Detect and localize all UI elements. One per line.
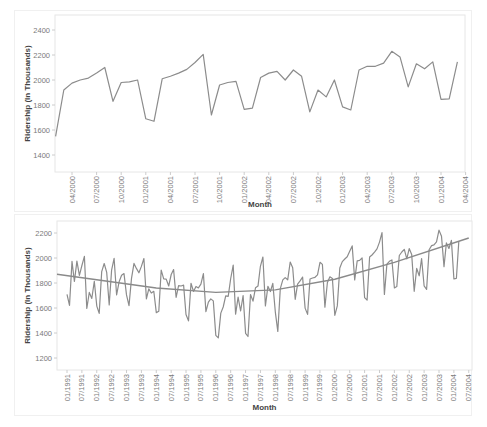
x-tick-label: 01/1992 [92, 374, 101, 401]
x-tick-label: 10/2003 [412, 176, 421, 203]
x-tick-label: 01/2004 [449, 374, 458, 401]
y-tick-label: 2000 [35, 254, 52, 263]
x-axis-label: Month [253, 403, 277, 412]
x-tick-label: 01/2001 [141, 176, 150, 203]
x-tick-label: 07/2000 [92, 176, 101, 203]
x-tick-label: 07/1992 [107, 374, 116, 401]
y-tick-label: 2000 [33, 76, 50, 85]
x-axis-label: Month [248, 200, 272, 209]
y-tick-label: 1400 [33, 151, 50, 160]
x-tick-label: 07/2004 [464, 374, 473, 401]
x-tick-label: 01/2003 [338, 176, 347, 203]
x-tick-label: 10/2001 [215, 176, 224, 203]
x-tick-label: 04/2000 [68, 176, 77, 203]
x-tick-label: 01/1998 [271, 374, 280, 401]
y-tick-label: 1600 [35, 304, 52, 313]
y-axis-label: Ridership (In Thousands) [23, 247, 32, 344]
x-tick-label: 07/1996 [226, 374, 235, 401]
x-tick-label: 01/1996 [211, 374, 220, 401]
x-tick-label: 07/2001 [191, 176, 200, 203]
x-tick-label: 01/1997 [241, 374, 250, 401]
x-tick-label: 04/2001 [166, 176, 175, 203]
x-tick-label: 07/2003 [387, 176, 396, 203]
x-tick-label: 07/2002 [405, 374, 414, 401]
x-tick-label: 10/2000 [117, 176, 126, 203]
y-tick-label: 2200 [33, 51, 50, 60]
x-tick-label: 01/1999 [301, 374, 310, 401]
x-tick-label: 07/1991 [77, 374, 86, 401]
x-tick-label: 01/2003 [420, 374, 429, 401]
x-tick-label: 01/1995 [182, 374, 191, 401]
x-tick-label: 07/1995 [196, 374, 205, 401]
x-tick-label: 07/2000 [345, 374, 354, 401]
y-tick-label: 1800 [35, 279, 52, 288]
y-tick-label: 2200 [35, 229, 52, 238]
x-tick-label: 07/1994 [167, 374, 176, 401]
x-tick-label: 04/2004 [461, 176, 470, 203]
y-tick-label: 1800 [33, 101, 50, 110]
x-tick-label: 07/1998 [286, 374, 295, 401]
y-tick-label: 1600 [33, 126, 50, 135]
charts-svg: 14001600180020002200240004/200007/200010… [0, 0, 487, 427]
y-tick-label: 1200 [35, 354, 52, 363]
y-tick-label: 2400 [33, 26, 50, 35]
x-tick-label: 01/2002 [390, 374, 399, 401]
x-tick-label: 10/2002 [314, 176, 323, 203]
x-tick-label: 07/2003 [435, 374, 444, 401]
x-tick-label: 01/1991 [63, 374, 72, 401]
chart-bottom: 12001400160018002000220001/199107/199101… [23, 221, 473, 412]
x-tick-label: 07/1993 [137, 374, 146, 401]
x-tick-label: 07/2001 [375, 374, 384, 401]
x-tick-label: 07/1999 [315, 374, 324, 401]
x-tick-label: 04/2003 [363, 176, 372, 203]
x-tick-label: 01/1994 [152, 374, 161, 401]
x-tick-label: 01/2004 [437, 176, 446, 203]
y-axis-label: Ridership (In Thousands) [23, 45, 32, 142]
x-tick-label: 01/1993 [122, 374, 131, 401]
chart-top: 14001600180020002200240004/200007/200010… [23, 15, 470, 209]
x-tick-label: 07/1997 [256, 374, 265, 401]
x-tick-label: 01/2000 [330, 374, 339, 401]
x-tick-label: 01/2001 [360, 374, 369, 401]
y-tick-label: 1400 [35, 329, 52, 338]
x-tick-label: 07/2002 [289, 176, 298, 203]
